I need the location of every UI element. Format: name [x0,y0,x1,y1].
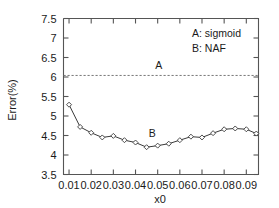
data-point-naf-8 [155,143,160,148]
data-point-naf-3 [100,135,105,140]
y-tick-label-6.5: 6.5 [41,52,56,64]
x-tick-label-0.06: 0.06 [169,179,190,191]
y-tick-label-7.5: 7.5 [41,13,56,25]
legend-entry-sigmoid: A: sigmoid [192,27,241,39]
data-point-naf-7 [144,145,149,150]
x-tick-label-0.09: 0.09 [236,179,257,191]
curve-annotations: AB [149,59,163,139]
y-tick-label-5: 5 [50,110,56,122]
data-point-naf-4 [111,133,116,138]
data-point-naf-0 [67,102,72,107]
data-point-naf-15 [233,126,238,131]
legend-entry-naf: B: NAF [192,42,226,54]
data-point-naf-12 [199,135,204,140]
data-series-layer [64,75,259,149]
y-axis-tick-labels: 3.544.555.566.577.5 [41,13,56,181]
data-point-naf-2 [89,130,94,135]
x-axis-title: x0 [154,193,166,205]
annotation-label-A: A [155,59,162,71]
data-point-naf-9 [166,141,171,146]
y-axis-title: Error(%) [6,79,18,121]
data-point-naf-5 [122,138,127,143]
x-tick-label-0.02: 0.02 [80,179,101,191]
x-tick-label-0.07: 0.07 [191,179,212,191]
x-axis-tick-labels: 0.010.020.030.040.050.060.070.080.09 [58,179,257,191]
plot-frame [64,19,259,175]
data-point-naf-11 [188,134,193,139]
y-tick-label-7: 7 [50,32,56,44]
y-axis-ticks [64,19,259,175]
data-point-naf-1 [78,124,83,129]
y-tick-label-4: 4 [50,149,56,161]
data-point-naf-10 [177,138,182,143]
data-point-naf-13 [211,131,216,136]
y-tick-label-6: 6 [50,71,56,83]
data-point-naf-14 [222,127,227,132]
plot-border [64,19,259,175]
x-tick-label-0.01: 0.01 [58,179,79,191]
series-path-naf [69,105,256,148]
x-tick-label-0.05: 0.05 [147,179,168,191]
x-tick-label-0.08: 0.08 [213,179,234,191]
error-vs-x0-line-chart: 3.544.555.566.577.5 0.010.020.030.040.05… [0,0,279,208]
annotation-label-B: B [149,127,156,139]
data-point-naf-16 [244,127,249,132]
y-tick-label-3.5: 3.5 [41,169,56,181]
y-tick-label-4.5: 4.5 [41,130,56,142]
x-tick-label-0.03: 0.03 [103,179,124,191]
y-tick-label-5.5: 5.5 [41,91,56,103]
chart-figure: 3.544.555.566.577.5 0.010.020.030.040.05… [0,0,279,208]
x-tick-label-0.04: 0.04 [125,179,146,191]
data-point-naf-6 [133,140,138,145]
